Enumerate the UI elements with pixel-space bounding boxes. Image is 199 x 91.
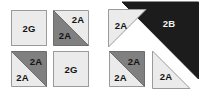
piece-label-upper-right: 2A	[30, 56, 42, 67]
piece-label-lower-left: 2A	[16, 72, 28, 83]
piece-label: 2B	[163, 18, 175, 29]
diagram-canvas: 2G 2A 2A 2A 2A 2G	[0, 0, 199, 91]
half-square-triangle-bottom-left[interactable]: 2A 2A	[11, 51, 47, 87]
corner-triangle-2a-top-left[interactable]: 2A	[108, 9, 148, 49]
corner-triangle-2a-bottom-right[interactable]: 2A	[152, 50, 194, 90]
large-triangle-unit-group: 2B 2A 2A 2A 2A	[100, 0, 199, 91]
four-patch-unit-group: 2G 2A 2A 2A 2A 2G	[0, 0, 99, 91]
half-square-triangle-top-right[interactable]: 2A 2A	[53, 10, 89, 46]
piece-label-lower-left: 2A	[59, 30, 71, 41]
piece-label-upper-right: 2A	[72, 14, 84, 25]
piece-label: 2G	[23, 23, 36, 34]
piece-label: 2A	[115, 20, 127, 31]
piece-label-lower-left: 2A	[114, 72, 126, 83]
piece-label: 2A	[160, 71, 172, 82]
plain-square-2g-bottom-right[interactable]: 2G	[53, 51, 89, 87]
plain-square-2g-top-left[interactable]: 2G	[11, 10, 47, 46]
piece-label-upper-right: 2A	[128, 56, 140, 67]
piece-label: 2G	[65, 64, 78, 75]
half-square-triangle-bottom-left[interactable]: 2A 2A	[109, 51, 145, 87]
triangle-fill	[153, 51, 191, 89]
